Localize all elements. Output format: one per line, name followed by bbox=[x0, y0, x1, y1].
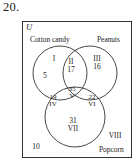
region-VIII-roman: VIII bbox=[105, 132, 125, 140]
region-VIII: VIII bbox=[105, 132, 125, 140]
set-label-cotton-candy: Cotton candy bbox=[30, 36, 70, 43]
region-II-count: 17 bbox=[62, 66, 80, 74]
region-I-count: 5 bbox=[36, 72, 54, 80]
region-I: I bbox=[45, 55, 63, 63]
region-VI-roman: VI bbox=[83, 101, 101, 108]
region-III: III 16 bbox=[88, 55, 106, 70]
region-VI: 22 VI bbox=[83, 94, 101, 108]
region-V-roman: V bbox=[63, 93, 81, 100]
region-IV-roman: IV bbox=[44, 101, 62, 108]
problem-number: 20. bbox=[3, 1, 19, 14]
region-III-count: 16 bbox=[88, 63, 106, 71]
venn-diagram-figure: 20. U Cotton candy Peanuts Popcorn I 5 I… bbox=[0, 0, 137, 166]
region-VII-roman: VII bbox=[64, 125, 82, 133]
region-VIII-count-wrap: 10 bbox=[28, 143, 44, 151]
region-I-roman: I bbox=[45, 55, 63, 63]
region-I-count-wrap: 5 bbox=[36, 72, 54, 80]
set-label-popcorn: Popcorn bbox=[99, 146, 124, 153]
region-VIII-count: 10 bbox=[28, 143, 44, 151]
region-V: 35 V bbox=[63, 86, 81, 100]
region-II: II 17 bbox=[62, 58, 80, 73]
region-IV: 19 IV bbox=[44, 94, 62, 108]
region-VII: 31 VII bbox=[64, 117, 82, 132]
set-label-peanuts: Peanuts bbox=[97, 36, 120, 43]
